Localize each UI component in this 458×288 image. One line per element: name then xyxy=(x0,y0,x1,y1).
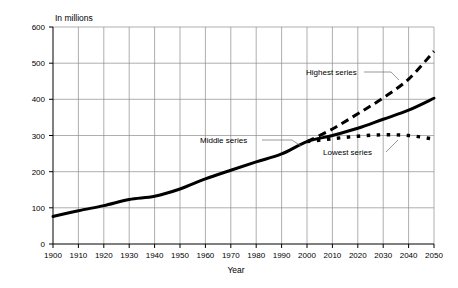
x-tick-label: 1900 xyxy=(44,251,62,260)
x-tick-label: 2040 xyxy=(400,251,418,260)
x-tick-label: 1960 xyxy=(197,251,215,260)
x-tick-label: 2000 xyxy=(298,251,316,260)
y-axis-tick-labels: 600 500 400 300 200 100 0 xyxy=(32,23,46,249)
population-projection-chart: In millions 600 500 400 300 200 100 0 19… xyxy=(0,0,458,288)
series-label-highest: Highest series xyxy=(306,68,357,77)
x-tick-label: 2030 xyxy=(374,251,392,260)
x-tick-label: 1930 xyxy=(120,251,138,260)
gridlines-horizontal xyxy=(53,27,434,208)
annotation-highest-series: Highest series xyxy=(306,68,399,80)
x-axis-title: Year xyxy=(227,265,244,275)
chart-canvas: In millions 600 500 400 300 200 100 0 19… xyxy=(0,0,458,288)
x-tick-label: 2010 xyxy=(324,251,342,260)
y-tick-label: 100 xyxy=(32,204,46,213)
y-tick-label: 200 xyxy=(32,168,46,177)
y-axis-unit-label: In millions xyxy=(55,13,93,23)
series-line-middle xyxy=(53,98,434,216)
x-axis-tick-labels: 1900 1910 1920 1930 1940 1950 1960 1970 … xyxy=(44,251,443,260)
series-line-highest xyxy=(307,51,434,141)
annotation-middle-series: Middle series xyxy=(200,136,301,146)
y-tick-label: 600 xyxy=(32,23,46,32)
x-tick-label: 1970 xyxy=(222,251,240,260)
y-axis-tickmarks xyxy=(49,27,53,244)
x-tick-label: 2050 xyxy=(425,251,443,260)
x-tick-label: 1920 xyxy=(95,251,113,260)
x-tick-label: 1940 xyxy=(146,251,164,260)
y-tick-label: 500 xyxy=(32,59,46,68)
series-label-lowest: Lowest series xyxy=(323,148,372,157)
series-label-middle: Middle series xyxy=(200,136,247,145)
annotation-lowest-series: Lowest series xyxy=(323,140,398,157)
y-tick-label: 0 xyxy=(41,240,46,249)
x-tick-label: 1980 xyxy=(247,251,265,260)
y-tick-label: 400 xyxy=(32,95,46,104)
x-tick-label: 1990 xyxy=(273,251,291,260)
x-tick-label: 1910 xyxy=(70,251,88,260)
y-tick-label: 300 xyxy=(32,132,46,141)
x-tick-label: 2020 xyxy=(349,251,367,260)
x-axis-tickmarks xyxy=(53,244,434,248)
x-tick-label: 1950 xyxy=(171,251,189,260)
